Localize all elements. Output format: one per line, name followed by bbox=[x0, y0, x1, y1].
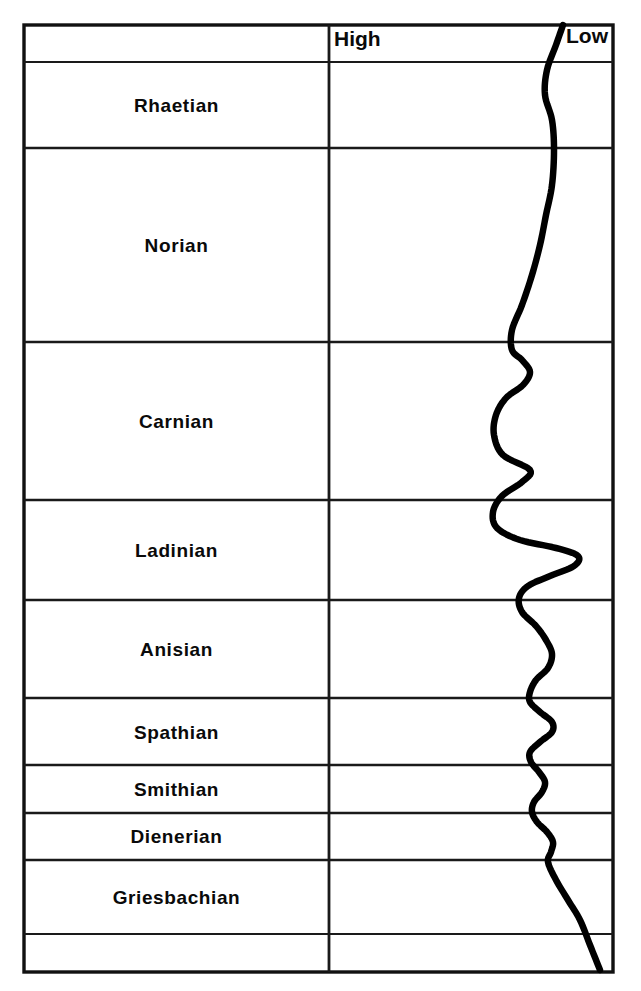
row-separators bbox=[24, 62, 613, 934]
sea-level-chart: High Low Rhaetian Norian Carnian Ladinia… bbox=[0, 0, 641, 991]
stage-label-rhaetian: Rhaetian bbox=[24, 96, 329, 115]
axis-label-high: High bbox=[334, 28, 381, 49]
stage-label-smithian: Smithian bbox=[24, 780, 329, 799]
stage-label-anisian: Anisian bbox=[24, 640, 329, 659]
sea-level-curve bbox=[493, 25, 600, 970]
stage-label-norian: Norian bbox=[24, 236, 329, 255]
stage-label-carnian: Carnian bbox=[24, 412, 329, 431]
stage-label-spathian: Spathian bbox=[24, 723, 329, 742]
stage-label-ladinian: Ladinian bbox=[24, 541, 329, 560]
stage-label-griesbachian: Griesbachian bbox=[24, 888, 329, 907]
axis-label-low: Low bbox=[566, 25, 608, 46]
stage-label-dienerian: Dienerian bbox=[24, 827, 329, 846]
